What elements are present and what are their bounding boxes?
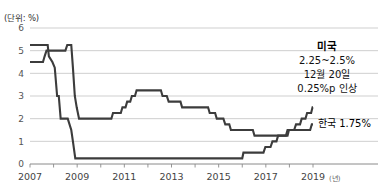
korea-annotation-label: 한국 1.75% <box>318 118 371 129</box>
x-axis-tick-2011: 2011 <box>112 171 136 182</box>
chart-plot-area: 01234562007200920112013201520172019(년)미국… <box>0 0 387 196</box>
x-axis-tick-2019: 2019 <box>301 171 325 182</box>
x-axis-tick-2015: 2015 <box>207 171 231 182</box>
us-annotation-line-2: 2.25~2.5% <box>299 55 355 66</box>
x-axis-tick-2009: 2009 <box>65 171 89 182</box>
y-axis-tick-2: 2 <box>18 114 24 124</box>
y-axis-tick-1: 1 <box>18 137 24 147</box>
y-axis-tick-0: 0 <box>18 159 24 169</box>
y-axis-tick-6: 6 <box>18 23 24 33</box>
x-axis-tick-2007: 2007 <box>18 171 42 182</box>
x-axis-unit-label: (년) <box>329 174 341 183</box>
series-line-korea <box>30 45 313 136</box>
x-axis-tick-2017: 2017 <box>254 171 278 182</box>
us-annotation-line-1: 미국 <box>317 40 337 52</box>
rate-comparison-chart: (단위: %) 01234562007200920112013201520172… <box>0 0 387 196</box>
y-axis-tick-5: 5 <box>18 46 24 56</box>
us-annotation-line-4: 0.25%p 인상 <box>297 83 356 94</box>
y-axis-tick-4: 4 <box>18 69 24 79</box>
us-annotation-line-3: 12월 20일 <box>304 69 351 80</box>
y-axis-tick-3: 3 <box>18 91 24 101</box>
x-axis-tick-2013: 2013 <box>159 171 183 182</box>
